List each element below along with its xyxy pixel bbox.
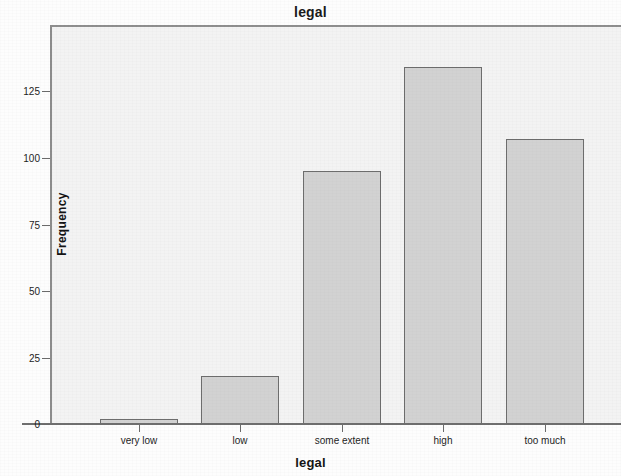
- y-tick-label-100: 100: [4, 153, 40, 164]
- y-tick-mark-100: [42, 158, 50, 159]
- x-tick-mark-very-low: [139, 425, 140, 432]
- y-tick-mark-25: [42, 358, 50, 359]
- y-tick-mark-75: [42, 225, 50, 226]
- y-tick-label-25: 25: [4, 353, 40, 364]
- y-tick-mark-125: [42, 91, 50, 92]
- y-tick-label-125: 125: [4, 86, 40, 97]
- bar-chart: legal Frequency 0 25 50 75 100 125 very …: [0, 0, 621, 476]
- x-tick-mark-too-much: [545, 425, 546, 432]
- y-tick-mark-0: [42, 424, 50, 425]
- x-tick-mark-high: [443, 425, 444, 432]
- y-axis-title: Frequency: [55, 144, 69, 304]
- x-tick-label-low: low: [232, 435, 247, 446]
- y-tick-label-75: 75: [4, 220, 40, 231]
- y-tick-mark-50: [42, 291, 50, 292]
- x-tick-mark-some-extent: [342, 425, 343, 432]
- x-tick-label-too-much: too much: [524, 435, 565, 446]
- x-axis-title: legal: [0, 455, 621, 470]
- x-tick-label-high: high: [434, 435, 453, 446]
- y-tick-label-0: 0: [4, 419, 40, 430]
- x-tick-mark-low: [240, 425, 241, 432]
- y-tick-label-50: 50: [4, 286, 40, 297]
- bar-high: [404, 67, 482, 424]
- bar-low: [201, 376, 279, 424]
- bar-very-low: [100, 419, 178, 424]
- bar-some-extent: [303, 171, 381, 424]
- bar-too-much: [506, 139, 584, 424]
- chart-title: legal: [0, 4, 621, 20]
- x-tick-label-very-low: very low: [121, 435, 158, 446]
- x-tick-label-some-extent: some extent: [315, 435, 369, 446]
